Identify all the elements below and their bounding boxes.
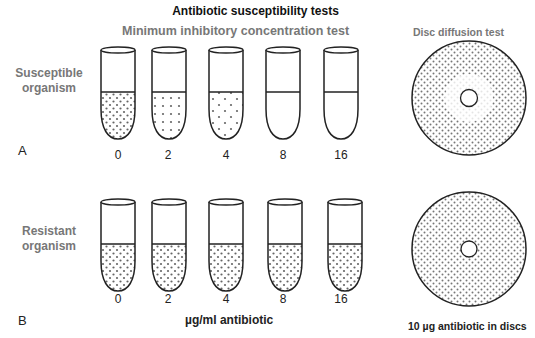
tube-resistant-16 [328, 199, 362, 292]
tube-susceptible-4 [209, 47, 243, 140]
tube-susceptible-2 [152, 47, 186, 140]
antibiotic-disc [461, 90, 478, 107]
diagram-canvas [0, 0, 535, 338]
agar-plate-susceptible [412, 41, 526, 155]
agar-plate-resistant [412, 192, 526, 306]
tube-susceptible-0 [101, 47, 135, 140]
antibiotic-disc [461, 241, 477, 257]
tube-susceptible-16 [324, 47, 358, 139]
tube-susceptible-8 [266, 47, 300, 139]
tube-resistant-4 [209, 199, 243, 292]
tube-resistant-0 [101, 199, 135, 292]
tube-resistant-8 [268, 199, 302, 292]
tube-resistant-2 [152, 199, 186, 292]
